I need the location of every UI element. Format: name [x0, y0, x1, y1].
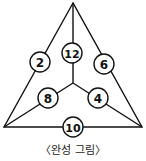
node-label: 8	[44, 92, 52, 106]
number-node-left-edge: 2	[30, 52, 50, 72]
node-label: 10	[65, 122, 81, 135]
number-node-bottom-edge: 10	[63, 117, 83, 137]
number-node-right-edge: 6	[94, 54, 114, 74]
number-node-center-left-spoke: 8	[38, 88, 58, 108]
node-label: 6	[100, 58, 108, 72]
node-label: 2	[36, 56, 44, 70]
figure-caption: 〈완성 그림〉	[0, 141, 146, 157]
triangle-diagram: 21268410	[0, 0, 146, 140]
node-label: 12	[64, 48, 79, 61]
number-node-center-right-spoke: 4	[88, 88, 108, 108]
spoke-right	[73, 83, 142, 127]
number-node-center-top-spoke: 12	[62, 43, 82, 63]
node-label: 4	[94, 92, 102, 106]
spoke-left	[4, 83, 73, 127]
